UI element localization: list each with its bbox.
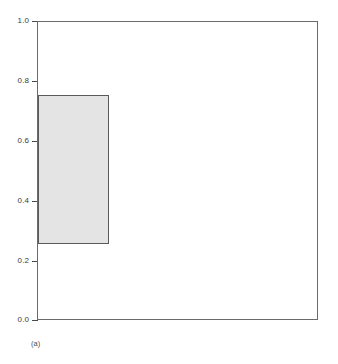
figure-panel: 1.0 0.8 0.6 0.4 0.2 0.0 (a) <box>0 0 338 364</box>
plot-area <box>37 21 318 320</box>
y-tick-label-5: 0.2 <box>0 257 29 265</box>
figure-caption: (a) <box>31 339 40 348</box>
y-tick-label-4: 0.4 <box>0 197 29 205</box>
y-tick-label-3: 0.6 <box>0 137 29 145</box>
y-tick-label-6: 0.0 <box>0 316 29 324</box>
data-rectangle <box>38 95 109 244</box>
y-tick-mark-6 <box>32 320 38 321</box>
y-tick-label-2: 0.8 <box>0 77 29 85</box>
y-tick-label-1: 1.0 <box>0 17 29 25</box>
